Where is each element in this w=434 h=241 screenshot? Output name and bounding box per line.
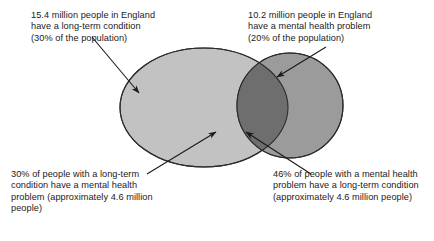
venn-diagram-figure: 15.4 million people in England have a lo… [0,0,434,241]
callout-mental-health-with-ltc: 46% of people with a mental health probl… [273,169,419,203]
callout-mental-health-total: 10.2 million people in England have a me… [248,10,378,44]
callout-ltc-with-mental-health: 30% of people with a long-term condition… [11,169,159,214]
callout-long-term-condition-total: 15.4 million people in England have a lo… [31,10,159,44]
leader-arrow-top-left [92,37,139,93]
